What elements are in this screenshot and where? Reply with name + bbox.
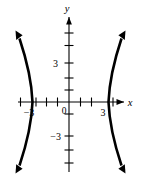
- x-axis-label: x: [127, 97, 133, 108]
- y-axis-arrow-icon: [66, 17, 72, 25]
- x-tick-label-minus3: −3: [24, 107, 35, 118]
- origin-label: 0: [62, 106, 67, 116]
- y-tick-label-minus3: −3: [50, 131, 61, 142]
- left-branch-upper-arrow-icon: [16, 31, 23, 40]
- labels-group: y x 0 −3 3 3 −3: [24, 3, 133, 142]
- right-branch-lower-arrow-icon: [118, 164, 125, 173]
- hyperbola-figure: y x 0 −3 3 3 −3: [0, 0, 141, 183]
- x-tick-label-plus3: 3: [101, 107, 106, 118]
- x-axis-arrow-icon: [117, 99, 125, 105]
- y-tick-label-plus3: 3: [53, 58, 58, 69]
- y-axis-label: y: [64, 3, 70, 14]
- coordinate-plane: y x 0 −3 3 3 −3: [0, 0, 141, 183]
- right-branch-upper-arrow-icon: [118, 31, 125, 40]
- left-branch-lower-arrow-icon: [16, 164, 23, 173]
